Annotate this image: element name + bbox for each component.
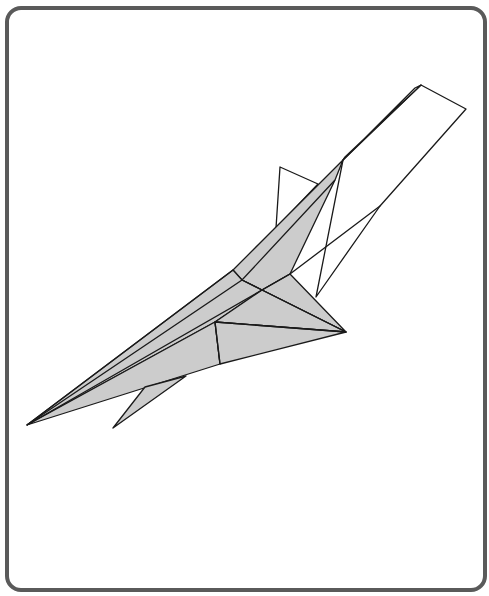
fold-shapes: [27, 85, 466, 428]
body-lower: [27, 322, 220, 425]
tail-flap-outline: [316, 85, 466, 297]
paper-airplane-diagram: [0, 0, 489, 596]
